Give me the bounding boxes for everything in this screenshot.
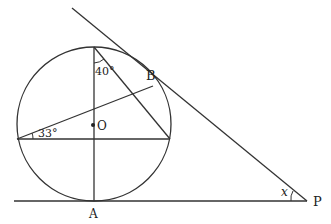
angle-arc-left (32, 133, 33, 139)
label-a: A (88, 207, 98, 221)
label-p: P (313, 194, 322, 209)
angle-arc-top (94, 59, 104, 63)
label-o: O (97, 119, 107, 133)
label-b: B (146, 68, 156, 83)
angle-arc-p (291, 191, 293, 201)
angle-label-top: 40° (95, 65, 115, 78)
angle-label-left: 33° (38, 127, 58, 140)
center-point-o (91, 123, 95, 127)
geometry-diagram: B O A P 40° 33° x (0, 0, 331, 224)
angle-label-x: x (281, 185, 288, 199)
